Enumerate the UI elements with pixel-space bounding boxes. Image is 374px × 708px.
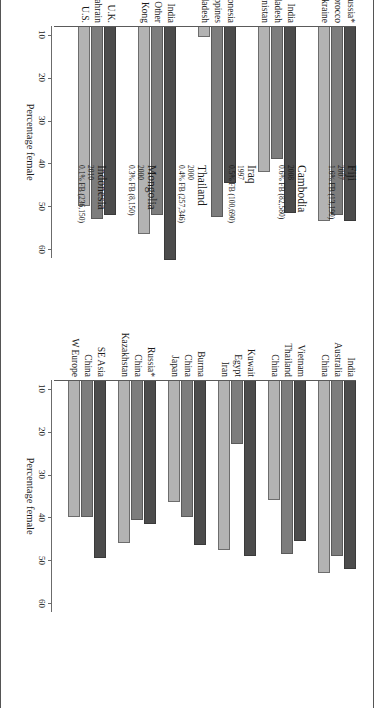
bar-afghanistan (258, 26, 270, 172)
category-labels: IndiaAsia, OtherHong Kong (138, 0, 177, 23)
value-axis-left: 102030405060 (51, 26, 52, 258)
axis-tick-label: 20 (37, 73, 47, 82)
bar-set (212, 380, 256, 612)
bar-set (262, 380, 306, 612)
bar-vietnam (294, 380, 306, 541)
category-label: Afghanistan (258, 0, 271, 23)
destination-year: 2000 (186, 165, 195, 277)
axis-tick (48, 560, 52, 561)
plot-area-right: IndiaAustraliaChinaFiji20071.6% FB (13,1… (56, 380, 356, 612)
bar-china (131, 380, 143, 520)
bar-thailand (281, 380, 293, 554)
category-label: U.S. (78, 0, 91, 23)
category-labels: IndiaAustraliaChina (318, 285, 357, 377)
axis-tick (48, 78, 52, 79)
destination-foreign-born-share: 0.5% FB (100,690) (227, 165, 236, 277)
bar-china (268, 380, 280, 500)
destination-foreign-born-share: 0.3% FB (8,150) (127, 165, 136, 277)
bar-w-europe (68, 380, 80, 517)
category-label: China (318, 285, 331, 377)
baseline-axis-right (54, 380, 356, 381)
destination-foreign-born-share: 1.6% FB (13,190) (327, 165, 336, 277)
destination-name: Thailand (195, 165, 208, 277)
destination-foreign-born-share: 0.6% FB (82,580) (277, 165, 286, 277)
bar-group: Russia*ChinaKazakhstanMongolia20000.3% F… (108, 380, 156, 612)
bar-australia (331, 380, 343, 556)
bar-group: KuwaitEgyptIranIraq19970.5% FB (100,690) (208, 380, 256, 612)
bar-group: SE AsiaChinaW EuropeIndonesia20100.1% FB… (58, 380, 106, 612)
axis-tick (48, 475, 52, 476)
bar-china (318, 380, 330, 573)
destination-block: Thailand20000.4% FB (257,346) (177, 165, 208, 277)
bar-india (164, 26, 176, 260)
axis-tick-label: 30 (37, 116, 47, 125)
destination-year: 2008 (286, 165, 295, 277)
destination-block: Iraq19970.5% FB (100,690) (227, 165, 258, 277)
bar-kuwait (244, 380, 256, 556)
destination-foreign-born-share: 0.1% FB (236,150) (77, 165, 86, 277)
axis-tick (48, 389, 52, 390)
axis-tick-label: 10 (37, 384, 47, 393)
axis-tick (48, 603, 52, 604)
bar-philippines (211, 26, 223, 217)
destination-name: Indonesia (95, 165, 108, 277)
figure-viewport: Russia*MoroccoUkraineIsrael199532.3% FB … (0, 0, 374, 708)
bar-japan (168, 380, 180, 502)
destination-year: 2010 (86, 165, 95, 277)
category-label: Vietnam (294, 285, 307, 377)
panel-right-inner: IndiaAustraliaChinaFiji20071.6% FB (13,1… (0, 354, 374, 708)
axis-tick (48, 206, 52, 207)
bar-group: IndiaAustraliaChinaFiji20071.6% FB (13,1… (308, 380, 356, 612)
category-label: Egypt (231, 285, 244, 377)
category-label: India (164, 0, 177, 23)
axis-tick-label: 50 (37, 556, 47, 565)
category-labels: KuwaitEgyptIran (218, 285, 257, 377)
axis-tick-label: 60 (37, 599, 47, 608)
axis-tick-label: 10 (37, 30, 47, 39)
axis-tick (48, 163, 52, 164)
destination-name: Fiji (345, 165, 358, 277)
axis-tick (48, 432, 52, 433)
category-label: Kuwait (244, 285, 257, 377)
axis-tick-label: 20 (37, 427, 47, 436)
category-labels: Russia*MoroccoUkraine (318, 0, 357, 23)
destination-name: Cambodia (295, 165, 308, 277)
category-label: India (344, 285, 357, 377)
axis-title-right: Percentage female (25, 380, 36, 612)
destination-year: 2000 (136, 165, 145, 277)
bar-bangladesh (271, 26, 283, 159)
category-labels: IndonesiaPhilippinesBangladesh (198, 0, 237, 23)
category-label: Burma (194, 285, 207, 377)
category-label: Ukraine (318, 0, 331, 23)
category-label: Russia* (144, 285, 157, 377)
chart-panel-right: IndiaAustraliaChinaFiji20071.6% FB (13,1… (0, 354, 374, 708)
bar-indonesia (224, 26, 236, 183)
axis-tick-label: 40 (37, 159, 47, 168)
category-label: W Europe (68, 285, 81, 377)
destination-block: Indonesia20100.1% FB (236,150) (77, 165, 108, 277)
bar-set (112, 380, 156, 612)
bar-iran (218, 380, 230, 550)
destination-foreign-born-share: 0.4% FB (257,346) (177, 165, 186, 277)
category-labels: Russia*ChinaKazakhstan (118, 285, 157, 377)
bar-egypt (231, 380, 243, 444)
category-label: Russia* (344, 0, 357, 23)
axis-tick (48, 121, 52, 122)
axis-tick (48, 35, 52, 36)
axis-tick-label: 60 (37, 245, 47, 254)
destination-name: Iraq (245, 165, 258, 277)
category-label: Thailand (281, 285, 294, 377)
bar-group: BurmaChinaJapanThailand20000.4% FB (257,… (158, 380, 206, 612)
axis-tick-label: 40 (37, 513, 47, 522)
axis-title-left: Percentage female (25, 26, 36, 258)
destination-block: Cambodia20080.6% FB (82,580) (277, 165, 308, 277)
category-label: Bahrain (91, 0, 104, 23)
bar-india (344, 380, 356, 569)
category-label: Morocco (331, 0, 344, 23)
bar-se-asia (94, 380, 106, 558)
bar-set (162, 380, 206, 612)
category-label: China (81, 285, 94, 377)
baseline-axis-left (54, 26, 356, 27)
bar-bangladesh (198, 26, 210, 37)
category-label: China (268, 285, 281, 377)
